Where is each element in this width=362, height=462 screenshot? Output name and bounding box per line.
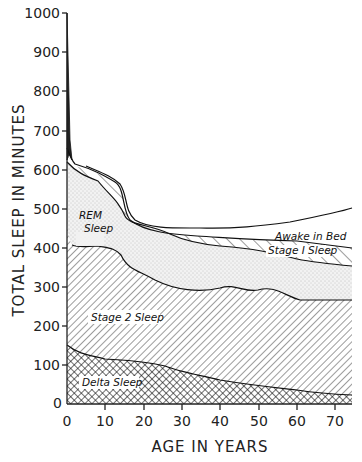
y-tick: 1000 bbox=[24, 5, 60, 21]
x-tick: 70 bbox=[326, 413, 344, 429]
y-tick: 100 bbox=[33, 357, 60, 373]
x-tick-labels: 0 10 20 30 40 50 60 70 bbox=[63, 413, 344, 429]
rem-label-line2: Sleep bbox=[84, 222, 114, 234]
y-axis bbox=[62, 13, 67, 404]
y-tick: 400 bbox=[33, 240, 60, 256]
y-axis-title: TOTAL SLEEP IN MINUTES bbox=[10, 103, 28, 317]
sleep-stages-chart: 1000 900 800 700 600 500 400 300 200 100… bbox=[0, 0, 362, 462]
awake-label: Awake in Bed bbox=[274, 230, 347, 242]
y-tick: 200 bbox=[33, 318, 60, 334]
x-tick: 30 bbox=[173, 413, 191, 429]
x-axis-title: AGE IN YEARS bbox=[151, 438, 268, 456]
x-tick: 60 bbox=[288, 413, 306, 429]
y-tick: 500 bbox=[33, 201, 60, 217]
x-tick: 0 bbox=[63, 413, 72, 429]
neonatal-spike bbox=[67, 13, 72, 160]
y-tick: 0 bbox=[53, 395, 62, 411]
stage2-label: Stage 2 Sleep bbox=[91, 311, 164, 323]
x-axis bbox=[67, 404, 352, 410]
y-tick: 700 bbox=[33, 123, 60, 139]
x-tick: 50 bbox=[250, 413, 268, 429]
y-tick-labels: 1000 900 800 700 600 500 400 300 200 100… bbox=[24, 5, 62, 411]
delta-label: Delta Sleep bbox=[82, 376, 143, 388]
rem-label-line1: REM bbox=[79, 209, 102, 221]
y-tick: 800 bbox=[33, 83, 60, 99]
y-tick: 600 bbox=[33, 162, 60, 178]
stage1-label: Stage I Sleep bbox=[268, 244, 338, 256]
y-tick: 300 bbox=[33, 279, 60, 295]
x-tick: 40 bbox=[211, 413, 229, 429]
y-tick: 900 bbox=[33, 44, 60, 60]
x-tick: 20 bbox=[135, 413, 153, 429]
x-tick: 10 bbox=[96, 413, 114, 429]
